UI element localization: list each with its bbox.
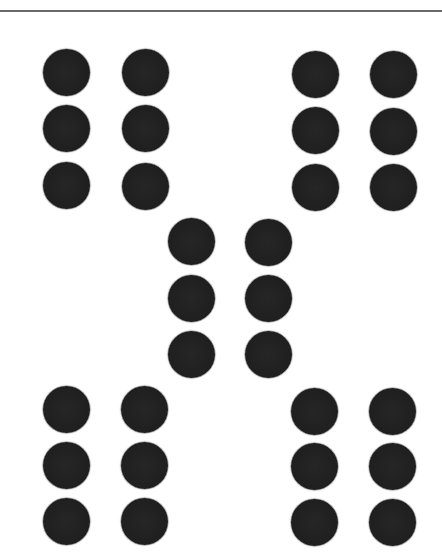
dot xyxy=(370,51,417,98)
dot xyxy=(43,162,90,209)
dot xyxy=(370,108,417,155)
dot xyxy=(292,51,339,98)
dot xyxy=(292,164,339,211)
dot xyxy=(245,275,292,322)
dot xyxy=(43,442,90,489)
dot xyxy=(369,499,416,546)
dot xyxy=(369,388,416,435)
dot xyxy=(291,388,338,435)
dot xyxy=(370,164,417,211)
dot xyxy=(122,49,169,96)
dot xyxy=(43,386,90,433)
dot-pattern-canvas xyxy=(0,0,442,557)
dot xyxy=(121,442,168,489)
dot xyxy=(122,105,169,152)
dot xyxy=(291,499,338,546)
dot xyxy=(369,443,416,490)
dot xyxy=(121,498,168,545)
dot xyxy=(291,443,338,490)
dot xyxy=(168,331,215,378)
dot xyxy=(245,331,292,378)
dot xyxy=(43,105,90,152)
dot xyxy=(168,218,215,265)
dot xyxy=(43,498,90,545)
dot xyxy=(292,107,339,154)
dot xyxy=(168,275,215,322)
dot xyxy=(245,219,292,266)
dot xyxy=(43,49,90,96)
dot xyxy=(121,386,168,433)
dot xyxy=(122,163,169,210)
